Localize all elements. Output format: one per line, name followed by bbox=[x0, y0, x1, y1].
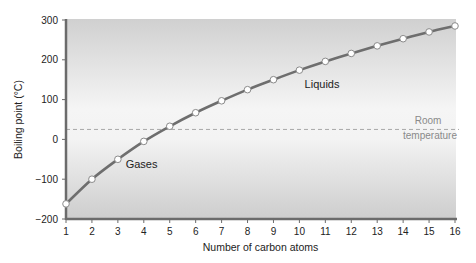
data-point bbox=[63, 201, 70, 208]
data-point bbox=[115, 156, 122, 163]
data-point bbox=[400, 35, 407, 42]
data-point bbox=[296, 67, 303, 74]
x-tick-label: 12 bbox=[346, 226, 358, 237]
temperature-label: temperature bbox=[403, 130, 457, 141]
data-point bbox=[322, 58, 329, 65]
x-tick-label: 1 bbox=[63, 226, 69, 237]
data-point bbox=[452, 23, 459, 30]
x-tick-label: 7 bbox=[219, 226, 225, 237]
x-tick-label: 16 bbox=[449, 226, 461, 237]
y-tick-label: 300 bbox=[41, 15, 58, 26]
x-tick-label: 6 bbox=[193, 226, 199, 237]
data-point bbox=[270, 76, 277, 83]
x-tick-label: 11 bbox=[320, 226, 331, 237]
x-tick-label: 5 bbox=[167, 226, 173, 237]
data-point bbox=[426, 29, 433, 36]
x-tick-label: 2 bbox=[89, 226, 95, 237]
phase-annotation: Liquids bbox=[305, 78, 340, 90]
data-point bbox=[244, 86, 251, 93]
x-tick-label: 8 bbox=[245, 226, 251, 237]
x-tick-label: 4 bbox=[141, 226, 147, 237]
x-tick-label: 15 bbox=[424, 226, 436, 237]
y-tick-label: −100 bbox=[35, 174, 58, 185]
x-tick-label: 3 bbox=[115, 226, 121, 237]
data-point bbox=[374, 43, 381, 50]
data-point bbox=[166, 123, 173, 130]
x-tick-label: 9 bbox=[271, 226, 277, 237]
y-axis-title: Boiling point (°C) bbox=[12, 80, 24, 159]
x-tick-label: 14 bbox=[398, 226, 410, 237]
y-tick-label: 200 bbox=[41, 54, 58, 65]
data-point bbox=[192, 109, 199, 116]
plot-background bbox=[66, 19, 456, 219]
data-point bbox=[141, 138, 148, 145]
data-point bbox=[89, 176, 96, 183]
x-axis-title: Number of carbon atoms bbox=[203, 241, 319, 253]
data-point bbox=[218, 97, 225, 104]
room-label: Room bbox=[415, 115, 442, 126]
boiling-point-chart: Roomtemperature 3002001000−100−200123456… bbox=[0, 0, 476, 263]
y-tick-label: 0 bbox=[52, 134, 58, 145]
y-tick-label: −200 bbox=[35, 214, 58, 225]
phase-annotation: Gases bbox=[126, 158, 158, 170]
y-tick-label: 100 bbox=[41, 94, 58, 105]
x-tick-label: 10 bbox=[294, 226, 306, 237]
x-tick-label: 13 bbox=[372, 226, 384, 237]
data-point bbox=[348, 50, 355, 57]
